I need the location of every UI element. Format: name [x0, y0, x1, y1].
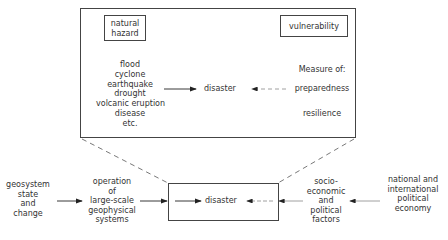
socio-line: political [300, 206, 352, 216]
operation-line: systems [84, 215, 140, 225]
national-line: political [380, 194, 446, 204]
measure-resilience: resilience [290, 109, 354, 119]
socio-economic-label: socio- economic and political factors [300, 177, 352, 225]
natural-hazard-line-1: natural [105, 19, 145, 29]
hazard-item: earthquake [96, 80, 164, 90]
geosystem-label: geosystem state and change [0, 180, 56, 218]
operation-label: operation of large-scale geophysical sys… [84, 177, 140, 225]
geosystem-line: change [0, 209, 56, 219]
socio-line: and [300, 196, 352, 206]
hazard-item: disease [96, 109, 164, 119]
vulnerability-label: vulnerability [281, 22, 347, 32]
natural-hazard-line-2: hazard [105, 29, 145, 39]
geosystem-line: and [0, 199, 56, 209]
hazard-item: etc. [96, 119, 164, 129]
political-economy-label: national and international political eco… [380, 175, 446, 213]
operation-line: operation [84, 177, 140, 187]
hazard-item: drought [96, 89, 164, 99]
hazard-item: cyclone [96, 70, 164, 80]
measure-preparedness: preparedness [290, 84, 354, 94]
geosystem-line: geosystem [0, 180, 56, 190]
national-line: national and [380, 175, 446, 185]
socio-line: socio- [300, 177, 352, 187]
operation-line: of [84, 187, 140, 197]
national-line: international [380, 185, 446, 195]
operation-line: geophysical [84, 206, 140, 216]
socio-line: factors [300, 215, 352, 225]
hazard-list: flood cyclone earthquake drought volcani… [96, 60, 164, 129]
measure-label: Measure of: [290, 65, 354, 75]
operation-line: large-scale [84, 196, 140, 206]
socio-line: economic [300, 187, 352, 197]
natural-hazard-label: natural hazard [105, 19, 145, 38]
national-line: economy [380, 204, 446, 214]
bottom-disaster-label: disaster [205, 196, 237, 206]
hazard-item: volcanic eruption [96, 99, 164, 109]
top-disaster-label: disaster [204, 84, 236, 94]
hazard-item: flood [96, 60, 164, 70]
vulnerability-box: vulnerability [280, 15, 348, 37]
geosystem-line: state [0, 190, 56, 200]
natural-hazard-box: natural hazard [104, 15, 146, 41]
